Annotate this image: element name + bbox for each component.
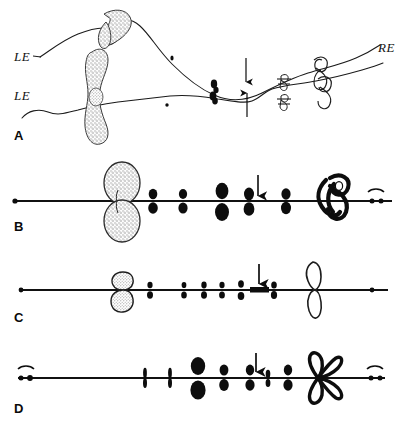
panel-b-nucleolus-upper-lobe <box>104 162 140 204</box>
panel-letter-d: D <box>14 401 23 416</box>
panel-letter-a: A <box>14 128 23 143</box>
label-le-upper: LE <box>14 49 30 65</box>
lower-nucleolus-core <box>89 88 103 106</box>
label-re: RE <box>378 40 395 56</box>
panel-c-terminal-knob-lower <box>308 290 321 318</box>
panel-a-upper-chromomeres <box>170 55 173 60</box>
panel-b-left-telomere <box>12 198 17 203</box>
panel-b-nucleolus-lower-lobe <box>104 200 140 242</box>
panel-c-nucleolus-upper <box>112 272 133 290</box>
panel-c-dark-band <box>250 287 269 293</box>
panel-b-knot-eye <box>335 182 342 191</box>
label-le-lower: LE <box>14 88 30 104</box>
pachytene-chromosome-figure <box>0 0 409 428</box>
panel-c-nucleolus-lower <box>111 290 133 312</box>
panel-a-lower-chromomeres <box>165 103 168 106</box>
panel-letter-b: B <box>14 219 23 234</box>
panel-letter-c: C <box>14 310 23 325</box>
panel-c-telomere-dot-right <box>370 288 375 293</box>
panel-c-left-telomere <box>19 288 24 293</box>
